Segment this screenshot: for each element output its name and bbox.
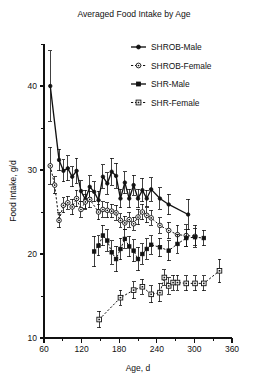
series-markers	[97, 269, 222, 322]
legend-label: SHR-Female	[151, 98, 200, 108]
y-tick-label: 10	[28, 333, 38, 343]
legend-item-shrob-female: SHROB-Female	[131, 61, 212, 71]
chart-title: Averaged Food Intake by Age	[77, 9, 190, 19]
chart-title-text: Averaged Food Intake by Age	[77, 9, 190, 19]
error-bars	[92, 225, 205, 271]
data-series-group	[48, 51, 222, 328]
series-shr-male	[92, 225, 205, 271]
series-markers	[48, 164, 197, 239]
legend-marker-filled-circle	[137, 45, 141, 49]
legend-marker-open-circle-dot	[136, 63, 141, 68]
chart-figure: Averaged Food Intake by Age 102030406012…	[0, 0, 255, 383]
x-axis-title: Age, d	[126, 363, 151, 373]
x-tick-label: 120	[75, 344, 89, 354]
y-axis-title: Food Intake, g/d	[8, 160, 18, 222]
legend-item-shrob-male: SHROB-Male	[131, 42, 202, 52]
x-tick-label: 360	[225, 344, 239, 354]
food-intake-line-chart: Averaged Food Intake by Age 102030406012…	[0, 0, 255, 383]
y-tick-label: 20	[28, 249, 38, 259]
legend-item-shr-female: SHR-Female	[131, 98, 200, 108]
x-tick-label: 180	[112, 344, 126, 354]
series-shrob-female	[48, 147, 197, 247]
chart-legend: SHROB-MaleSHROB-FemaleSHR-MaleSHR-Female	[131, 42, 212, 108]
y-tick-label: 30	[28, 165, 38, 175]
series-shr-female	[97, 259, 222, 328]
x-tick-label: 300	[187, 344, 201, 354]
legend-label: SHR-Male	[151, 79, 190, 89]
x-tick-label: 60	[39, 344, 49, 354]
legend-marker-filled-square	[137, 82, 141, 86]
error-bars	[48, 147, 197, 247]
y-tick-label: 40	[28, 81, 38, 91]
legend-marker-open-square-dot	[136, 100, 141, 105]
x-tick-label: 240	[150, 344, 164, 354]
legend-label: SHROB-Female	[151, 61, 212, 71]
legend-item-shr-male: SHR-Male	[131, 79, 190, 89]
legend-label: SHROB-Male	[151, 42, 202, 52]
